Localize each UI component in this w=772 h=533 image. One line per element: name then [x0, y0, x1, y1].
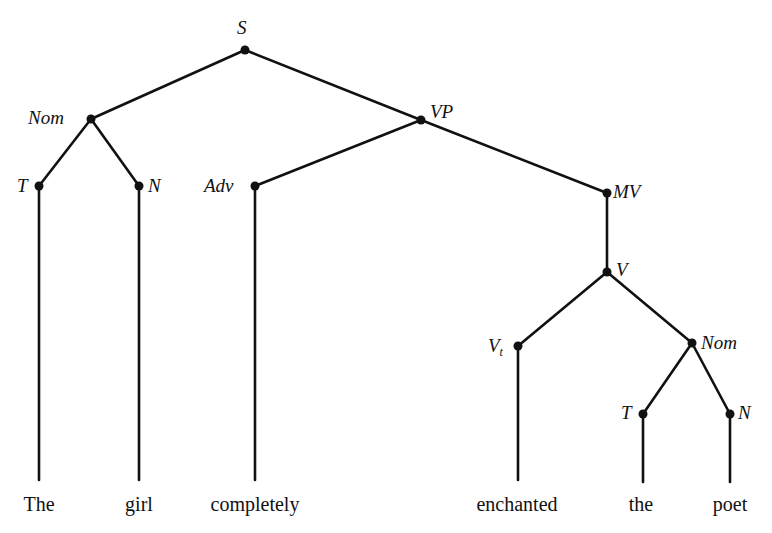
node-label-nom: Nom — [28, 108, 64, 127]
word-the-2: the — [629, 494, 653, 514]
node-dot-vp — [417, 116, 426, 125]
node-dot-nom — [87, 115, 96, 124]
node-dot-t — [35, 182, 44, 191]
node-label-mv: MV — [613, 182, 640, 201]
node-label-n: N — [148, 176, 161, 195]
word-the: The — [23, 494, 54, 514]
node-dot-t2 — [639, 410, 648, 419]
word-completely: completely — [211, 494, 300, 514]
node-label-v: V — [616, 260, 628, 279]
node-label-nom2: Nom — [701, 333, 737, 352]
node-label-vp: VP — [430, 102, 453, 121]
node-dot-n2 — [726, 410, 735, 419]
node-label-adv: Adv — [204, 176, 234, 195]
node-dot-mv — [603, 189, 612, 198]
node-dot-s — [241, 46, 250, 55]
node-label-t: T — [17, 176, 28, 195]
node-dot-adv — [251, 182, 260, 191]
node-dot-v — [603, 268, 612, 277]
node-label-vt: Vt — [488, 336, 503, 358]
word-poet: poet — [713, 494, 747, 514]
word-girl: girl — [125, 494, 153, 514]
node-dot-nom2 — [688, 339, 697, 348]
tree-lines — [0, 0, 772, 533]
word-enchanted: enchanted — [476, 494, 557, 514]
node-label-n2: N — [738, 403, 751, 422]
node-label-s: S — [237, 18, 247, 37]
node-label-t2: T — [621, 403, 632, 422]
node-dot-vt — [514, 342, 523, 351]
node-dot-n — [135, 182, 144, 191]
